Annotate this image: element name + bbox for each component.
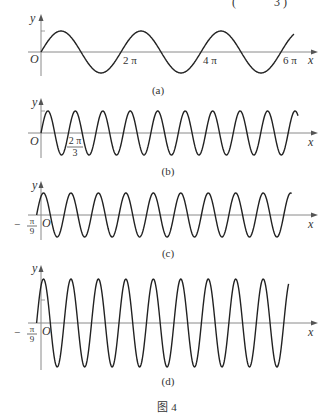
header-fragment-3: 3 ) [274,0,287,9]
shift-den: 9 [30,226,35,236]
origin-label: O [30,52,39,66]
shift-den: 9 [30,334,35,344]
panel-label-a: (a) [152,84,165,97]
tick-label-2pi-3-den: 3 [73,147,78,158]
y-axis-arrow-icon [39,14,44,21]
origin-label: O [42,324,51,338]
figure-caption: 图 4 [157,401,177,413]
y-axis-label: y [31,178,38,192]
y-axis-label: y [29,11,36,25]
panel-b: y O 2 π 3 x (b) [28,95,318,178]
x-axis-label: x [307,135,314,149]
header-fragment: ( [232,0,236,9]
origin-label: O [30,134,39,148]
panel-label-b: (b) [162,165,175,178]
panel-label-c: (c) [162,247,175,260]
y-axis-arrow-icon [39,98,44,105]
panel-label-d: (d) [162,375,175,388]
shift-num: π [30,324,35,334]
x-axis-label: x [307,53,314,67]
tick-label-4pi: 4 π [203,54,217,66]
panel-a: y O 2 π 4 π 6 π x (a) [28,11,318,97]
shift-sign: − [14,218,20,230]
shift-sign: − [14,326,20,338]
x-axis-label: x [307,325,314,339]
x-axis-label: x [307,217,314,231]
origin-label: O [42,216,51,230]
y-axis-arrow-icon [39,181,44,188]
tick-label-2pi-3-num: 2 π [69,135,82,146]
panel-c: y O − π 9 x (c) [14,178,318,260]
figure-4: ( 3 ) y O 2 π 4 π 6 π x (a) y O 2 π 3 x … [0,0,333,418]
tick-label-6pi: 6 π [283,54,297,66]
y-axis-label: y [31,261,38,275]
panel-d: y O − π 9 x (d) [14,261,318,388]
tick-label-2pi: 2 π [123,54,137,66]
y-axis-arrow-icon [39,265,44,272]
y-axis-label: y [31,95,38,109]
shift-num: π [30,216,35,226]
